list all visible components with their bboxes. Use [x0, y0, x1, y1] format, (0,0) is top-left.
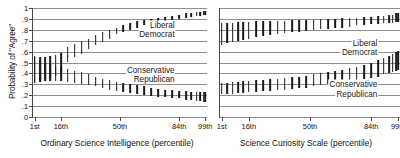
data-point-errorbar [243, 22, 245, 39]
data-point-errorbar [356, 18, 358, 26]
data-point-errorbar [74, 44, 76, 57]
data-point-errorbar [123, 25, 125, 32]
data-point-errorbar [95, 35, 97, 45]
x-axis-tick [398, 117, 399, 121]
data-point-errorbar [370, 63, 372, 78]
y-axis-tick-label: 0 [24, 113, 28, 122]
x-axis-title-right: Science Curiosity Scale (percentile) [212, 138, 400, 148]
gridline [33, 106, 207, 107]
x-axis-tick-label: 1st [30, 122, 40, 131]
y-axis-tick-label: .6 [22, 47, 28, 56]
data-point-errorbar [237, 82, 239, 93]
data-point-errorbar [196, 92, 198, 101]
data-point-errorbar [185, 91, 187, 100]
data-point-errorbar [232, 23, 234, 42]
x-axis-tick [222, 117, 223, 121]
gridline [33, 95, 207, 96]
data-point-errorbar [298, 77, 300, 88]
data-point-errorbar [363, 65, 365, 79]
gridline [33, 84, 207, 85]
series-annotation-conservative: Conservative [329, 80, 379, 89]
data-point-errorbar [88, 39, 90, 50]
series-annotation-democrat: Democrat [138, 30, 176, 39]
data-point-errorbar [55, 66, 57, 81]
data-point-errorbar [378, 16, 380, 25]
data-point-errorbar [370, 17, 372, 25]
data-point-errorbar [67, 47, 69, 62]
y-axis-tick [29, 19, 33, 20]
data-point-errorbar [190, 13, 192, 16]
x-axis-tick [249, 117, 250, 121]
data-point-errorbar [284, 78, 286, 90]
data-point-errorbar [313, 74, 315, 86]
data-point-errorbar [284, 21, 286, 33]
data-point-errorbar [306, 20, 308, 31]
series-annotation-republican: Republican [133, 75, 176, 84]
data-point-errorbar [178, 91, 180, 99]
gridline [220, 63, 400, 64]
data-point-errorbar [306, 76, 308, 88]
y-axis-tick-label: 1 [24, 4, 28, 13]
gridline [220, 73, 400, 74]
x-axis-tick-label: 99th [198, 122, 212, 131]
data-point-errorbar [164, 90, 166, 98]
data-point-errorbar [171, 90, 173, 99]
x-axis-tick [35, 117, 36, 121]
gridline [33, 19, 207, 20]
x-axis-tick-label: 50th [113, 122, 127, 131]
x-axis-tick [371, 117, 372, 121]
y-axis-tick-label: .5 [22, 58, 28, 67]
series-annotation-liberal: Liberal [352, 38, 379, 47]
data-point-errorbar [123, 83, 125, 92]
x-axis-title-left: Ordinary Science Intelligence (percentil… [22, 138, 212, 148]
data-point-errorbar [356, 67, 358, 80]
x-axis-tick [205, 117, 206, 121]
y-axis-tick-label: .8 [22, 25, 28, 34]
data-point-errorbar [150, 88, 152, 97]
data-point-errorbar [67, 69, 69, 82]
data-point-errorbar [185, 13, 187, 17]
x-axis-tick-label: 84th [172, 122, 186, 131]
data-point-errorbar [243, 81, 245, 93]
data-point-errorbar [262, 21, 264, 36]
y-axis-tick-label: .1 [22, 102, 28, 111]
y-axis-tick [29, 30, 33, 31]
y-axis-tick-label: .4 [22, 69, 28, 78]
y-axis-tick [29, 73, 33, 74]
x-axis-tick [310, 117, 311, 121]
series-annotation-liberal: Liberal [149, 20, 176, 29]
data-point-errorbar [221, 23, 223, 45]
x-axis-tick-label: 84th [364, 122, 378, 131]
x-axis-tick [61, 117, 62, 121]
data-point-errorbar [383, 58, 385, 74]
y-axis-tick [29, 52, 33, 53]
y-axis-tick [29, 106, 33, 107]
data-point-errorbar [277, 79, 279, 90]
data-point-errorbar [392, 15, 394, 24]
data-point-errorbar [116, 28, 118, 35]
data-point-errorbar [144, 86, 146, 95]
data-point-errorbar [102, 79, 104, 88]
data-point-errorbar [349, 18, 351, 27]
data-point-errorbar [291, 20, 293, 32]
data-point-errorbar [102, 32, 104, 42]
data-point-errorbar [196, 12, 198, 15]
data-point-errorbar [199, 92, 201, 101]
data-point-errorbar [204, 11, 206, 14]
x-axis-tick-label: 50th [303, 122, 317, 131]
gridline [33, 30, 207, 31]
data-point-errorbar [137, 21, 139, 28]
series-annotation-conservative: Conservative [126, 66, 176, 75]
x-axis-tick-label: 16th [242, 122, 256, 131]
data-point-errorbar [334, 19, 336, 28]
data-point-errorbar [199, 12, 201, 15]
y-axis-tick [29, 84, 33, 85]
gridline [220, 106, 400, 107]
data-point-errorbar [298, 20, 300, 32]
data-point-errorbar [204, 92, 206, 102]
data-point-errorbar [232, 82, 234, 94]
data-point-errorbar [237, 22, 239, 41]
gridline [33, 8, 207, 9]
y-axis-tick [29, 63, 33, 64]
y-axis-tick [29, 117, 33, 118]
